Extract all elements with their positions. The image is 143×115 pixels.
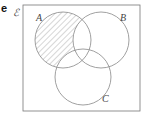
set-c-label: C bbox=[102, 93, 109, 104]
set-a-label: A bbox=[35, 12, 43, 23]
venn-diagram: ℰ A B C bbox=[0, 0, 143, 115]
set-b-label: B bbox=[120, 12, 126, 23]
universal-set-symbol: ℰ bbox=[13, 7, 20, 18]
